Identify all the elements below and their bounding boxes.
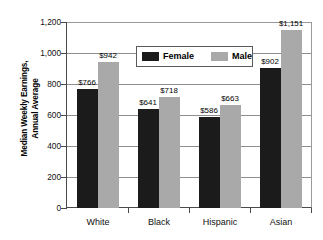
bar-asian-female [260,68,281,208]
legend: Female Male [136,46,253,67]
y-tick-label: 1,200 [21,18,61,26]
x-tick-label-asian: Asian [246,217,316,227]
y-tick-label: 600 [21,111,61,119]
x-tick-label-hispanic: Hispanic [185,217,255,227]
bar-hispanic-female [199,117,220,208]
bar-white-female [77,89,98,208]
bar-value-label: $663 [212,95,249,103]
bar-chart: Median Weekly Earnings, Annual Average 0… [0,0,323,240]
bar-black-male [159,97,180,208]
x-tick-label-black: Black [124,217,194,227]
legend-swatch-male-icon [211,52,228,61]
x-tick-mark [311,208,312,213]
bar-value-label: $942 [90,52,127,60]
y-tick-label: 800 [21,80,61,88]
bar-asian-male [281,30,302,208]
legend-item-female: Female [137,47,194,66]
y-tick-label: 200 [21,173,61,181]
y-tick-label: 1,000 [21,49,61,57]
bar-value-label: $1,151 [273,20,310,28]
legend-label-male: Male [232,52,252,61]
y-axis-title: Median Weekly Earnings, Annual Average [0,0,30,215]
legend-item-male: Male [206,47,252,66]
y-tick-mark [61,208,67,209]
y-tick-label: 400 [21,142,61,150]
legend-swatch-female-icon [142,52,159,61]
x-tick-mark [189,208,190,213]
x-tick-mark [128,208,129,213]
bar-hispanic-male [220,105,241,208]
x-tick-mark [250,208,251,213]
y-tick-label: 0 [21,204,61,212]
bar-white-male [98,62,119,208]
x-tick-label-white: White [63,217,133,227]
bar-black-female [138,109,159,208]
bar-value-label: $718 [151,87,188,95]
legend-label-female: Female [163,52,194,61]
